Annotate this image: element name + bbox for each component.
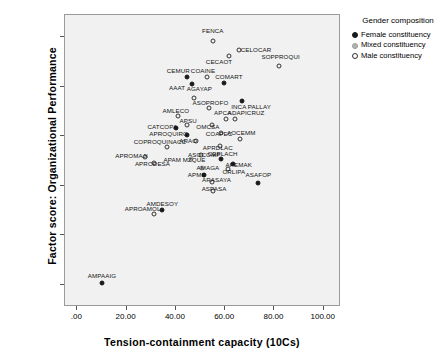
- x-axis-tick-mark: [175, 306, 176, 310]
- data-point: [99, 281, 104, 286]
- y-axis-title: Factor score: Organizational Performance: [46, 6, 58, 306]
- data-point: [184, 74, 189, 79]
- data-point-label: AMLECO: [163, 106, 190, 113]
- data-point: [224, 116, 229, 121]
- data-point-label: AOCEMM: [227, 128, 255, 135]
- data-point: [207, 106, 212, 111]
- x-axis-title: Tension-containment capacity (10Cs): [64, 336, 340, 348]
- data-point-label: ASOPROFO: [192, 98, 228, 105]
- data-point-label: APRODESA: [135, 160, 170, 167]
- data-point: [204, 75, 209, 80]
- x-axis-tick-mark: [76, 306, 77, 310]
- legend-entry-label: Male constituency: [361, 52, 422, 60]
- data-point-label: SOPPROQUI: [261, 53, 299, 60]
- data-point-label: AGAYAP: [187, 85, 212, 92]
- data-point: [151, 212, 156, 217]
- scatter-plot-figure: Factor score: Organizational Performance…: [0, 0, 445, 360]
- data-point-label: CEPLACH: [208, 149, 238, 156]
- data-point: [165, 145, 170, 150]
- legend-entries: Female constituencyMixed constituencyMal…: [352, 31, 444, 60]
- x-axis-tick-mark: [323, 306, 324, 310]
- data-point-label: APROAMOL: [125, 204, 161, 211]
- male-marker-icon: [352, 53, 358, 59]
- data-point: [233, 116, 238, 121]
- data-point: [210, 39, 215, 44]
- data-point-label: COPROQUINACC: [134, 137, 186, 144]
- x-axis-tick-mark: [126, 306, 127, 310]
- legend: Gender composition Female constituencyMi…: [352, 16, 444, 62]
- data-point: [256, 180, 261, 185]
- data-point-label: APROQUIRC: [149, 129, 187, 136]
- data-point-label: OMCSA: [196, 122, 219, 129]
- female-marker-icon: [352, 32, 358, 38]
- data-point-label: COMART: [215, 73, 242, 80]
- data-point-label: CEMUR: [167, 67, 190, 74]
- legend-entry-mixed[interactable]: Mixed constituency: [352, 41, 444, 49]
- data-point: [221, 80, 226, 85]
- data-point-label: ORLIPA: [222, 167, 245, 174]
- data-point-label: ASAFOP: [246, 170, 272, 177]
- legend-entry-label: Mixed constituency: [361, 41, 426, 49]
- data-point-label: APSU: [180, 117, 197, 124]
- x-axis-tick-mark: [224, 306, 225, 310]
- data-point-label: FENCA: [202, 27, 223, 34]
- data-point-label: ADAPICRUZ: [228, 108, 265, 115]
- data-point: [237, 137, 242, 142]
- data-point-label: AAAT: [169, 84, 185, 91]
- mixed-marker-icon: [352, 43, 358, 49]
- data-point-label: ARASAYA: [202, 175, 231, 182]
- legend-title: Gender composition: [352, 16, 444, 26]
- legend-entry-female[interactable]: Female constituency: [352, 31, 444, 39]
- data-point-label: CECAOT: [206, 58, 232, 65]
- data-point-label: AMPAAIG: [88, 271, 116, 278]
- data-point: [277, 63, 282, 68]
- plot-area: FENCACECAOTCELOCARSOPPROQUICEMURCOAINECO…: [64, 14, 340, 306]
- data-point-label: COAINE: [191, 67, 215, 74]
- data-point-label: ASPASA: [202, 185, 227, 192]
- data-point-label: APROMAJI: [115, 151, 147, 158]
- legend-entry-label: Female constituency: [361, 31, 431, 39]
- data-point: [219, 156, 224, 161]
- x-axis-tick-label: 100.00: [293, 312, 353, 321]
- x-axis-tick-mark: [273, 306, 274, 310]
- legend-entry-male[interactable]: Male constituency: [352, 52, 444, 60]
